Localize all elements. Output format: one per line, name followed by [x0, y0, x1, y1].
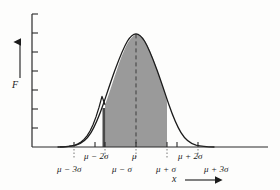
x-axis-label: x: [172, 174, 177, 184]
narrow-probability-bar: [103, 108, 106, 147]
normal-distribution-figure: F x μ − 2σ μ μ + 2σ μ − 3σ μ − σ μ + σ μ…: [0, 0, 280, 190]
distribution-plot: [0, 0, 280, 190]
tick-label-mu-plus-3sigma: μ + 3σ: [204, 165, 229, 174]
tick-label-mu-plus-sigma: μ + σ: [156, 165, 176, 174]
tick-label-mu-plus-2sigma: μ + 2σ: [178, 152, 203, 161]
tick-label-mu: μ: [132, 152, 137, 161]
x-axis-ticks: [74, 142, 198, 147]
gaussian-curve: [60, 96, 105, 146]
tick-label-mu-minus-3sigma: μ − 3σ: [57, 165, 82, 174]
tick-label-mu-minus-sigma: μ − σ: [112, 165, 132, 174]
y-axis-ticks: [32, 14, 38, 128]
y-axis-label: F: [12, 80, 18, 90]
tick-label-mu-minus-2sigma: μ − 2σ: [84, 152, 109, 161]
